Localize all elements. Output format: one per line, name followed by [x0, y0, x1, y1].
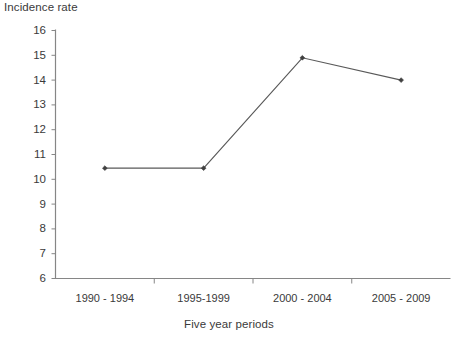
x-axis-tick-label: 1995-1999 — [154, 292, 253, 305]
line-chart: Incidence rate 161514131211109876 1990 -… — [0, 0, 458, 341]
y-axis-tick-label: 10 — [20, 173, 46, 185]
chart-screenshot: Incidence rate 161514131211109876 1990 -… — [0, 0, 458, 341]
y-axis-tick-label: 11 — [20, 148, 46, 160]
y-axis-tick-label: 13 — [20, 98, 46, 110]
x-axis-tick-label: 2005 - 2009 — [352, 292, 451, 305]
x-axis-tick-label: 1990 - 1994 — [56, 292, 155, 305]
plot-area — [0, 0, 458, 341]
data-point-marker — [399, 78, 404, 83]
y-axis-tick-label: 14 — [20, 74, 46, 86]
y-axis-tick-label: 15 — [20, 49, 46, 61]
series-line — [105, 58, 401, 168]
y-axis-tick-label: 12 — [20, 123, 46, 135]
x-axis-tick-label: 2000 - 2004 — [253, 292, 352, 305]
data-series — [102, 55, 403, 170]
y-axis-tick-label: 9 — [20, 198, 46, 210]
y-axis-tick-label: 8 — [20, 222, 46, 234]
y-axis-tick-label: 6 — [20, 272, 46, 284]
axes — [52, 30, 451, 284]
x-axis-title: Five year periods — [0, 318, 458, 330]
y-axis-tick-label: 7 — [20, 247, 46, 259]
data-point-marker — [102, 166, 107, 171]
y-axis-tick-label: 16 — [20, 24, 46, 36]
